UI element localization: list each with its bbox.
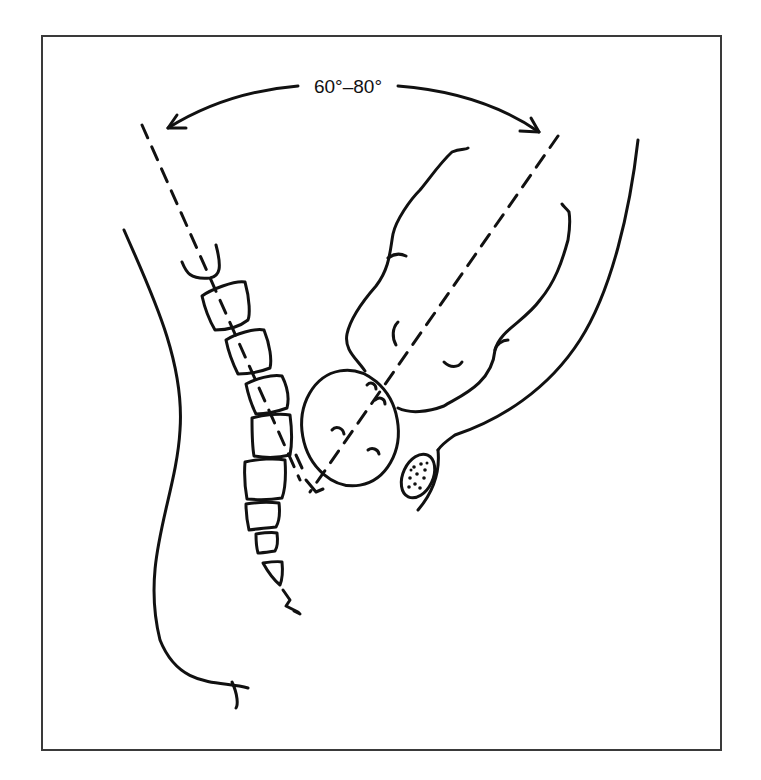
vertebra bbox=[256, 533, 277, 553]
uterine-axis-line bbox=[310, 136, 558, 492]
coccyx bbox=[283, 590, 300, 614]
spine-axis-line bbox=[142, 125, 300, 480]
vertebra bbox=[246, 502, 279, 530]
uterus-body bbox=[293, 363, 408, 494]
intestine-fold bbox=[388, 254, 406, 258]
angle-arc-right bbox=[398, 86, 539, 132]
uterus-marking bbox=[368, 449, 379, 454]
pelvic-axis-diagram: 60°–80° bbox=[0, 0, 761, 780]
cervix bbox=[296, 455, 323, 492]
sacrum-tip bbox=[263, 562, 282, 585]
intestine-outline-lower bbox=[398, 204, 570, 412]
posterior-body-contour bbox=[124, 230, 248, 688]
vertebra bbox=[245, 459, 286, 500]
vertebral-column bbox=[182, 245, 300, 614]
intestine-marking bbox=[393, 322, 398, 345]
angle-arc-left bbox=[168, 86, 298, 128]
pubic-bone-outline bbox=[395, 449, 442, 503]
uterus-marking bbox=[375, 398, 385, 404]
vertebra bbox=[246, 376, 288, 414]
pubic-bone-speckles bbox=[407, 462, 428, 490]
lower-abdominal-contour bbox=[418, 450, 438, 510]
angle-arrow: 60°–80° bbox=[168, 76, 539, 132]
vertebra bbox=[252, 414, 292, 457]
intestine-marking bbox=[444, 362, 462, 367]
anterior-abdominal-wall bbox=[438, 140, 638, 450]
intestine-outline-upper bbox=[347, 148, 468, 371]
angle-label: 60°–80° bbox=[314, 76, 382, 97]
vertebra bbox=[202, 282, 249, 330]
uterus-marking bbox=[332, 427, 344, 434]
uterus-marking bbox=[367, 383, 376, 389]
vertebra bbox=[182, 245, 219, 278]
pubic-bone bbox=[395, 449, 442, 503]
